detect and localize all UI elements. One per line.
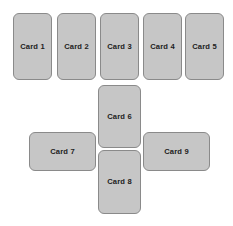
- card-label: Card 3: [107, 43, 132, 51]
- card-label: Card 9: [164, 148, 189, 156]
- card-1[interactable]: Card 1: [13, 13, 52, 80]
- card-label: Card 6: [107, 113, 132, 121]
- card-label: Card 1: [20, 43, 45, 51]
- card-9[interactable]: Card 9: [143, 132, 210, 171]
- card-6[interactable]: Card 6: [98, 85, 141, 148]
- card-7[interactable]: Card 7: [29, 132, 96, 171]
- card-label: Card 5: [192, 43, 217, 51]
- card-3[interactable]: Card 3: [100, 13, 139, 80]
- card-5[interactable]: Card 5: [185, 13, 224, 80]
- card-label: Card 4: [150, 43, 175, 51]
- card-8[interactable]: Card 8: [98, 150, 141, 214]
- card-label: Card 2: [64, 43, 89, 51]
- card-4[interactable]: Card 4: [143, 13, 182, 80]
- card-board: Card 1Card 2Card 3Card 4Card 5Card 6Card…: [0, 0, 233, 226]
- card-label: Card 8: [107, 178, 132, 186]
- card-2[interactable]: Card 2: [57, 13, 96, 80]
- card-label: Card 7: [50, 148, 75, 156]
